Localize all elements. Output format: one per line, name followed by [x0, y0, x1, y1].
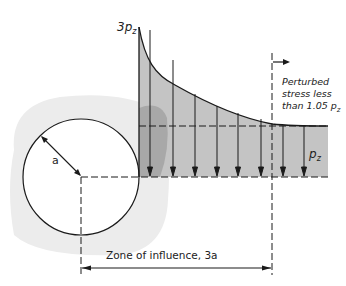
- note-arrow-icon: [283, 59, 290, 65]
- note-line-3: than 1.05 pz: [282, 100, 341, 116]
- dimension-arrow-left-icon: [82, 266, 91, 271]
- note-line-2: stress less: [282, 88, 341, 100]
- diagram-canvas: [0, 0, 346, 286]
- perturbed-stress-note: Perturbed stress less than 1.05 pz: [282, 76, 341, 116]
- zone-of-influence-label: Zone of influence, 3a: [106, 249, 218, 261]
- peak-stress-label: 3pz: [117, 20, 136, 36]
- note-line-1: Perturbed: [282, 76, 341, 88]
- dimension-arrow-right-icon: [262, 266, 271, 271]
- radius-label: a: [52, 154, 59, 167]
- far-field-stress-label: pz: [309, 147, 321, 163]
- high-stress-shading: [139, 106, 168, 177]
